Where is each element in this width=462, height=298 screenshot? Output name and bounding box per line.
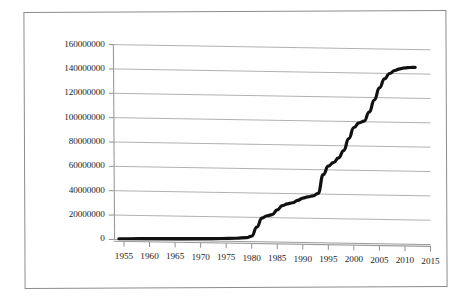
x-tick-label: 1990 [289, 254, 317, 264]
y-axis-line [113, 45, 114, 240]
y-tick-label: 80000000 [69, 136, 105, 146]
y-tick-label: 100000000 [64, 112, 104, 122]
gridline [114, 69, 431, 74]
y-tick-label: 60000000 [69, 160, 105, 170]
chart-figure: 0200000004000000060000000800000001000000… [0, 0, 462, 298]
x-tick-label: 2010 [391, 255, 419, 265]
y-tick-label: 120000000 [64, 87, 104, 97]
x-tick-label: 1985 [263, 253, 291, 263]
gridline [114, 191, 431, 196]
x-tick-label: 1955 [110, 251, 138, 261]
x-tick-label: 1965 [161, 251, 189, 261]
gridline [114, 142, 431, 147]
gridline [114, 166, 431, 171]
x-tick-marks-group [124, 242, 430, 252]
gridline [114, 118, 431, 123]
x-tick-label: 1995 [314, 254, 342, 264]
y-tick-label: 20000000 [69, 209, 105, 219]
x-tick-label: 1960 [136, 251, 164, 261]
y-tick-label: 160000000 [64, 39, 104, 49]
x-tick-label: 1975 [212, 252, 240, 262]
y-tick-label: 140000000 [64, 63, 104, 73]
x-tick-label: 2000 [340, 254, 368, 264]
x-tick-label: 2015 [417, 256, 445, 266]
gridline [114, 93, 431, 98]
x-tick-label: 1970 [187, 252, 215, 262]
gridline [114, 45, 431, 50]
x-tick-label: 2005 [365, 255, 393, 265]
data-series-line [119, 67, 415, 238]
x-tick-label: 1980 [238, 253, 266, 263]
y-tick-label: 40000000 [69, 185, 105, 195]
y-tick-label: 0 [100, 233, 105, 243]
